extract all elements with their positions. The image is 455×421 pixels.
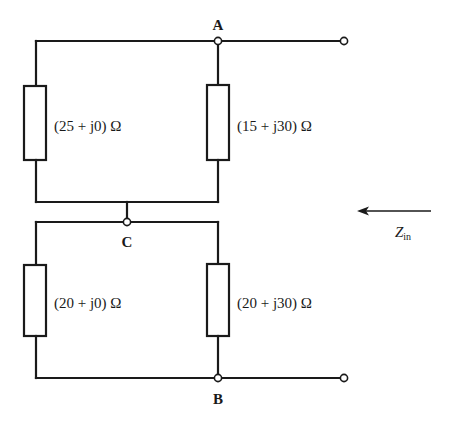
node-c-label: C	[122, 234, 133, 250]
circuit-diagram: A C B (25 + j0) Ω (15 + j30) Ω (20 + j0)…	[0, 0, 455, 421]
resistor-lower-left	[24, 265, 46, 336]
impedance-lower-left-label: (20 + j0) Ω	[54, 295, 122, 312]
node-a-label: A	[213, 17, 224, 33]
impedance-upper-left-label: (25 + j0) Ω	[54, 118, 122, 135]
node-b	[214, 374, 221, 381]
node-a	[214, 37, 221, 44]
resistor-lower-right	[207, 264, 229, 336]
zin-label: Zin	[395, 224, 411, 242]
node-c	[123, 218, 130, 225]
zin-arrow-icon	[357, 207, 431, 216]
zin-subscript: in	[403, 231, 411, 242]
node-b-label: B	[213, 391, 223, 407]
resistor-upper-right	[207, 85, 229, 160]
impedance-lower-right-label: (20 + j30) Ω	[237, 295, 312, 312]
impedance-upper-right-label: (15 + j30) Ω	[237, 118, 312, 135]
resistor-upper-left	[24, 86, 46, 160]
terminal-bottom	[340, 374, 347, 381]
terminal-top	[340, 37, 347, 44]
